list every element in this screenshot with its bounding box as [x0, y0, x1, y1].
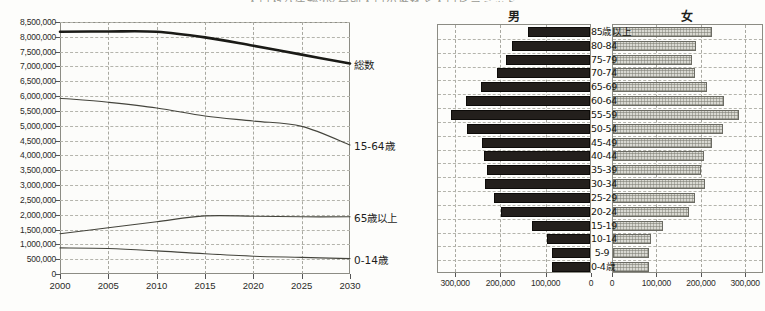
pyramid-row-gridline	[438, 177, 590, 178]
line-chart-y-tick-label: 3,500,000	[0, 165, 56, 175]
pyramid-row-gridline	[613, 233, 762, 234]
pyramid-bar-female	[613, 138, 712, 148]
pyramid-x-tick-label-male: 200,000	[486, 278, 515, 288]
pyramid-age-label: 15-19	[591, 219, 613, 230]
pyramid-header-male: 男	[508, 7, 520, 24]
pyramid-bar-male	[506, 55, 590, 65]
pyramid-x-tick-label-male: 300,000	[440, 278, 469, 288]
pyramid-gridline-female	[701, 25, 702, 272]
pyramid-bar-female	[613, 151, 704, 161]
line-chart-y-tick-label: 7,000,000	[0, 61, 56, 71]
pyramid-age-label: 75-79	[591, 53, 613, 64]
pyramid-x-tick-mark-male	[455, 273, 456, 277]
pyramid-row-gridline	[613, 80, 762, 81]
pyramid-row-gridline	[613, 177, 762, 178]
line-chart-y-tick-label: 1,000,000	[0, 239, 56, 249]
pyramid-x-tick-label-male: 0	[589, 278, 594, 288]
line-chart-y-tick-label: 1,500,000	[0, 225, 56, 235]
line-chart-y-tick-label: 2,500,000	[0, 195, 56, 205]
pyramid-bar-female	[613, 124, 723, 134]
pyramid-row-gridline	[438, 67, 590, 68]
pyramid-row-gridline	[613, 122, 762, 123]
pyramid-bar-female	[613, 68, 695, 78]
pyramid-row-gridline	[613, 260, 762, 261]
pyramid-row-gridline	[438, 260, 590, 261]
pyramid-x-tick-mark-male	[500, 273, 501, 277]
pyramid-row-gridline	[613, 191, 762, 192]
pyramid-bar-male	[552, 262, 591, 272]
line-chart-x-tick-mark	[60, 274, 61, 279]
pyramid-age-label: 65-69	[591, 81, 613, 92]
pyramid-x-tick-mark-female	[745, 273, 746, 277]
pyramid-x-tick-mark-male	[546, 273, 547, 277]
pyramid-bar-male	[451, 110, 590, 120]
population-pyramid-chart: 男 女 85歳以上80-8475-7970-7465-6960-6455-595…	[425, 0, 765, 311]
line-chart-y-tick-label: 4,500,000	[0, 136, 56, 146]
line-chart-x-tick-mark	[253, 274, 254, 279]
pyramid-row-gridline	[438, 136, 590, 137]
pyramid-x-tick-label-female: 0	[610, 278, 615, 288]
pyramid-bar-male	[512, 41, 590, 51]
line-chart-y-tick-label: 6,500,000	[0, 76, 56, 86]
pyramid-row-gridline	[438, 246, 590, 247]
pyramid-row-gridline	[438, 53, 590, 54]
pyramid-age-label: 60-64	[591, 95, 613, 106]
pyramid-bar-male	[481, 82, 590, 92]
pyramid-row-gridline	[438, 205, 590, 206]
line-chart-y-tick-label: 5,500,000	[0, 106, 56, 116]
pyramid-male-panel	[437, 24, 591, 273]
pyramid-age-label: 5-9	[591, 247, 613, 258]
pyramid-age-label: 55-59	[591, 108, 613, 119]
pyramid-row-gridline	[613, 246, 762, 247]
line-chart-y-tick-label: 4,000,000	[0, 150, 56, 160]
pyramid-row-gridline	[613, 163, 762, 164]
line-chart-x-tick-label: 2005	[98, 280, 119, 291]
pyramid-age-label: 35-39	[591, 164, 613, 175]
pyramid-bar-male	[497, 68, 590, 78]
pyramid-age-label: 70-74	[591, 67, 613, 78]
pyramid-bar-male	[467, 124, 590, 134]
line-chart-series-label-3: 0-14歳	[354, 251, 388, 266]
line-chart-y-tick-label: 0	[0, 269, 56, 279]
pyramid-row-gridline	[613, 205, 762, 206]
pyramid-gridline-male	[500, 25, 501, 272]
pyramid-age-label: 0-4歳	[591, 259, 613, 273]
pyramid-row-gridline	[438, 150, 590, 151]
pyramid-x-tick-mark-female	[612, 273, 613, 277]
pyramid-row-gridline	[438, 233, 590, 234]
line-chart-series-svg	[60, 22, 350, 274]
pyramid-header-female: 女	[681, 7, 693, 24]
pyramid-female-panel	[612, 24, 763, 273]
pyramid-row-gridline	[438, 122, 590, 123]
figure-root: 人口及び年齢3区分別人口の推移と人口ピラミッド 0500,0001,000,00…	[0, 0, 765, 311]
pyramid-bar-male	[466, 96, 590, 106]
pyramid-row-gridline	[613, 136, 762, 137]
pyramid-bar-male	[484, 151, 590, 161]
pyramid-row-gridline	[438, 191, 590, 192]
pyramid-bar-male	[547, 234, 590, 244]
line-chart-x-tick-label: 2025	[291, 280, 312, 291]
pyramid-bar-female	[613, 234, 651, 244]
line-chart-series-2	[60, 216, 350, 234]
pyramid-age-label: 25-29	[591, 191, 613, 202]
pyramid-row-gridline	[613, 53, 762, 54]
line-chart-x-tick-label: 2020	[243, 280, 264, 291]
pyramid-age-label: 85歳以上	[591, 24, 613, 38]
pyramid-bar-male	[501, 207, 590, 217]
line-chart-y-tick-label: 8,000,000	[0, 32, 56, 42]
pyramid-age-label: 45-49	[591, 136, 613, 147]
pyramid-x-tick-mark-female	[656, 273, 657, 277]
pyramid-bar-female	[613, 262, 649, 272]
population-projection-line-chart: 0500,0001,000,0001,500,0002,000,0002,500…	[0, 14, 420, 311]
pyramid-gridline-female	[745, 25, 746, 272]
line-chart-series-label-2: 65歳以上	[354, 209, 397, 224]
pyramid-row-gridline	[613, 108, 762, 109]
pyramid-bar-female	[613, 207, 689, 217]
pyramid-bar-female	[613, 179, 705, 189]
pyramid-bar-male	[487, 165, 590, 175]
pyramid-row-gridline	[613, 94, 762, 95]
pyramid-row-gridline	[613, 150, 762, 151]
line-chart-y-tick-label: 7,500,000	[0, 47, 56, 57]
pyramid-x-tick-label-female: 300,000	[731, 278, 760, 288]
line-chart-series-label-1: 15-64歳	[354, 138, 395, 153]
